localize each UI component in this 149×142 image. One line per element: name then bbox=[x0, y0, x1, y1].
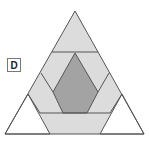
triangle-diagram bbox=[0, 0, 149, 142]
